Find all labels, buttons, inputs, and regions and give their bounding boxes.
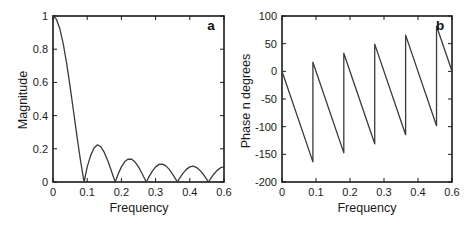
y-tick-label: 50 — [265, 38, 277, 50]
phase-chart: 00.10.20.30.40.6100500-50-100-150-200 — [235, 0, 470, 228]
axis-box — [53, 16, 224, 182]
y-tick-label: -100 — [255, 121, 277, 133]
panel-letter-b: b — [436, 18, 444, 33]
y-tick-label: -150 — [255, 148, 277, 160]
y-tick-label: 100 — [259, 10, 277, 22]
y-tick-label: 0.4 — [33, 110, 48, 122]
y-tick-label: 0 — [42, 176, 48, 188]
magnitude-chart: 00.10.20.30.40.600.20.40.60.81 — [0, 0, 235, 228]
two-panel-filter-response-figure: 00.10.20.30.40.600.20.40.60.81 00.10.20.… — [0, 0, 470, 228]
axis-box — [282, 16, 452, 182]
y-tick-label: 1 — [42, 10, 48, 22]
x-tick-label: 0.1 — [80, 186, 95, 198]
y-axis-label-magnitude: Magnitude — [16, 71, 30, 129]
y-tick-label: -200 — [255, 176, 277, 188]
x-tick-label: 0 — [50, 186, 56, 198]
x-tick-label: 0.2 — [342, 186, 357, 198]
x-tick-label: 0.4 — [182, 186, 197, 198]
x-axis-label-a: Frequency — [109, 201, 168, 215]
x-axis-label-b: Frequency — [337, 201, 396, 215]
y-tick-label: 0.8 — [33, 43, 48, 55]
x-tick-label: 0.2 — [114, 186, 129, 198]
x-tick-label: 0.3 — [376, 186, 391, 198]
phase-curve — [282, 26, 452, 162]
panel-letter-a: a — [207, 18, 215, 33]
y-tick-label: 0.6 — [33, 76, 48, 88]
x-tick-label: 0.3 — [148, 186, 163, 198]
y-tick-label: -50 — [261, 93, 277, 105]
magnitude-curve — [53, 16, 224, 182]
y-tick-label: 0.2 — [33, 143, 48, 155]
x-tick-label: 0.4 — [410, 186, 425, 198]
x-tick-label: 0 — [279, 186, 285, 198]
y-tick-label: 0 — [271, 65, 277, 77]
x-tick-label: 0.6 — [216, 186, 231, 198]
y-axis-label-phase: Phase n degrees — [239, 54, 253, 149]
x-tick-label: 0.1 — [308, 186, 323, 198]
x-tick-label: 0.6 — [444, 186, 459, 198]
